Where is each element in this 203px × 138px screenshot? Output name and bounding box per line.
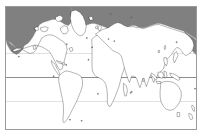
map-plot-frame	[5, 6, 197, 130]
island-dot-fiji	[195, 88, 196, 89]
landmass-newfoundland	[69, 47, 73, 51]
island-dot-bermuda	[66, 44, 67, 45]
landmass-new-zealand-south	[189, 113, 193, 119]
landmass-hispaniola	[62, 63, 65, 65]
landmass-victoria-island	[41, 27, 48, 32]
landmass-new-zealand-north	[192, 105, 195, 111]
island-dot-reunion	[130, 92, 131, 93]
world-distribution-map-figure	[0, 0, 203, 138]
island-dot-mauritius	[131, 91, 132, 92]
landmass-new-guinea	[170, 73, 180, 80]
island-dot-cape-verde	[88, 59, 89, 60]
landmass-borneo	[158, 72, 164, 78]
landmass-sri-lanka	[143, 78, 144, 81]
island-dot-sakhalin	[176, 41, 177, 43]
landmass-java	[156, 81, 161, 83]
landmass-hainan	[159, 50, 160, 52]
island-dot-st-helena	[97, 93, 98, 94]
island-dot-falklands	[69, 119, 70, 120]
island-dot-svalbard	[110, 13, 111, 15]
world-map-svg	[6, 7, 196, 129]
landmass-australia	[160, 81, 181, 110]
island-dot-hawaii	[18, 56, 19, 57]
island-dot-novaya-zemlya	[131, 16, 132, 18]
landmass-sulawesi	[164, 71, 167, 78]
landmass-madagascar	[124, 84, 128, 96]
island-dot-south-georgia	[81, 120, 82, 121]
island-dot-caribbean	[66, 64, 67, 65]
landmass-vancouver-island	[33, 45, 36, 49]
island-dot-sicily	[108, 38, 109, 39]
island-dot-azores	[86, 37, 87, 38]
island-dot-canaries	[92, 47, 93, 48]
island-dot-crete	[114, 40, 115, 41]
landmass-ireland	[96, 26, 98, 29]
landmass-south-america	[59, 71, 83, 123]
landmass-japan	[173, 51, 178, 62]
landmass-tasmania	[178, 112, 180, 116]
landmass-group	[12, 10, 195, 123]
landmass-baffin-island	[61, 26, 68, 34]
island-dot-galapagos	[53, 76, 54, 77]
